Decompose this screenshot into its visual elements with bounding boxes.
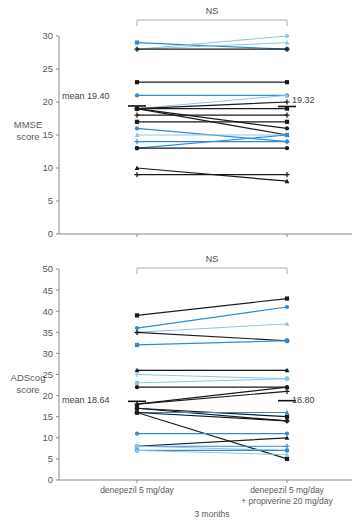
y-tick-label-adascog-40: 40 bbox=[42, 306, 53, 317]
marker-mmse-p1-left bbox=[135, 41, 139, 45]
marker-adascog-q14-left bbox=[135, 406, 139, 410]
marker-adascog-q5-left bbox=[135, 343, 139, 347]
mean-label-left-adascog: mean 18.64 bbox=[62, 395, 110, 405]
mean-label-right-mmse: 19.32 bbox=[292, 95, 315, 105]
x-category-label-left: denepezil 5 mg/day bbox=[100, 485, 174, 495]
y-tick-label-adascog-50: 50 bbox=[42, 263, 53, 274]
marker-mmse-p12-right bbox=[284, 113, 289, 118]
y-tick-label-mmse-5: 5 bbox=[48, 195, 53, 206]
y-tick-label-adascog-45: 45 bbox=[42, 285, 53, 296]
paired-line-plots: NS051015202530MMSEscoremean 19.4019.32NS… bbox=[0, 0, 360, 524]
series-line-adascog-q23 bbox=[137, 450, 287, 454]
series-line-adascog-q4 bbox=[137, 332, 287, 340]
ns-bracket-mmse bbox=[137, 20, 287, 26]
marker-mmse-p20-right bbox=[284, 172, 289, 177]
ns-label-adascog: NS bbox=[206, 254, 219, 264]
series-line-adascog-q21 bbox=[137, 446, 287, 450]
marker-mmse-p14-left bbox=[135, 126, 139, 130]
marker-mmse-p2-right bbox=[285, 34, 289, 38]
series-line-mmse-p8 bbox=[137, 102, 287, 109]
y-tick-label-mmse-30: 30 bbox=[42, 30, 53, 41]
series-line-adascog-q11 bbox=[137, 387, 287, 404]
y-axis-subtitle-mmse: score bbox=[16, 131, 39, 142]
series-line-adascog-q8 bbox=[137, 375, 287, 379]
marker-mmse-p13-left bbox=[135, 120, 139, 124]
x-category-label-right-line2: + propiverine 20 mg/day bbox=[241, 496, 333, 506]
marker-adascog-q9-left bbox=[135, 381, 139, 385]
marker-adascog-q22-right bbox=[285, 448, 289, 452]
marker-mmse-p12-left bbox=[134, 113, 139, 118]
marker-mmse-p5-right bbox=[285, 80, 289, 84]
y-tick-label-mmse-20: 20 bbox=[42, 96, 53, 107]
marker-mmse-p13-right bbox=[285, 120, 289, 124]
series-line-adascog-q19 bbox=[137, 438, 287, 446]
marker-adascog-q5-right bbox=[285, 339, 289, 343]
ns-label-mmse: NS bbox=[206, 6, 219, 16]
marker-adascog-q20-right bbox=[284, 444, 289, 449]
marker-mmse-p17-right bbox=[285, 133, 289, 137]
panel-adascog: NS05101520253035404550ADScogscoremean 18… bbox=[11, 254, 352, 485]
marker-mmse-p16-right bbox=[284, 139, 289, 144]
y-axis-title-mmse: MMSE bbox=[14, 119, 43, 130]
series-line-adascog-q1 bbox=[137, 299, 287, 316]
series-line-adascog-q5 bbox=[137, 341, 287, 345]
mean-label-right-adascog: 18.80 bbox=[292, 395, 315, 405]
figure-root: NS051015202530MMSEscoremean 19.4019.32NS… bbox=[0, 0, 360, 524]
y-axis-title-adascog: ADScog bbox=[11, 372, 46, 383]
y-tick-label-adascog-10: 10 bbox=[42, 432, 53, 443]
y-tick-label-mmse-15: 15 bbox=[42, 129, 53, 140]
marker-adascog-q8-left bbox=[134, 372, 139, 377]
marker-mmse-p20-left bbox=[134, 172, 139, 177]
marker-adascog-q21-left bbox=[135, 444, 139, 448]
y-axis-subtitle-adascog: score bbox=[16, 384, 39, 395]
y-tick-label-mmse-0: 0 bbox=[48, 228, 53, 239]
marker-adascog-q13-right bbox=[285, 415, 289, 419]
marker-adascog-q18-right bbox=[285, 431, 289, 435]
marker-adascog-q1-left bbox=[135, 313, 139, 317]
x-category-label-right-line1: denepezil 5 mg/day bbox=[250, 485, 324, 495]
ns-bracket-adascog bbox=[137, 268, 287, 274]
marker-adascog-q16-right bbox=[284, 418, 289, 423]
series-line-adascog-q9 bbox=[137, 379, 287, 383]
y-tick-label-adascog-30: 30 bbox=[42, 348, 53, 359]
y-tick-label-adascog-35: 35 bbox=[42, 327, 53, 338]
marker-adascog-q17-left bbox=[135, 410, 139, 414]
y-tick-label-adascog-15: 15 bbox=[42, 411, 53, 422]
y-tick-label-mmse-10: 10 bbox=[42, 162, 53, 173]
x-axis-title-shared: 3 months bbox=[195, 509, 230, 519]
y-tick-label-adascog-0: 0 bbox=[48, 474, 53, 485]
x-category-labels: denepezil 5 mg/daydenepezil 5 mg/day+ pr… bbox=[100, 485, 333, 519]
marker-adascog-q1-right bbox=[285, 296, 289, 300]
mean-label-left-mmse: mean 19.40 bbox=[62, 91, 110, 101]
y-tick-label-adascog-5: 5 bbox=[48, 453, 53, 464]
y-tick-label-mmse-25: 25 bbox=[42, 63, 53, 74]
marker-adascog-q17-right bbox=[285, 457, 289, 461]
marker-adascog-q2-right bbox=[285, 305, 289, 309]
marker-mmse-p18-left bbox=[135, 146, 139, 150]
series-line-mmse-p2 bbox=[137, 36, 287, 49]
marker-adascog-q12-right bbox=[284, 389, 289, 394]
panel-mmse: NS051015202530MMSEscoremean 19.4019.32 bbox=[14, 6, 352, 239]
marker-mmse-p8-right bbox=[284, 99, 289, 104]
marker-mmse-p16-left bbox=[134, 139, 139, 144]
marker-mmse-p6-left bbox=[135, 93, 139, 97]
y-tick-label-adascog-20: 20 bbox=[42, 390, 53, 401]
series-line-mmse-p10 bbox=[137, 109, 287, 129]
marker-adascog-q9-right bbox=[285, 377, 289, 381]
marker-mmse-p10-right bbox=[285, 126, 289, 130]
marker-adascog-q2-left bbox=[135, 326, 139, 330]
marker-mmse-p18-right bbox=[285, 146, 289, 150]
marker-adascog-q10-left bbox=[135, 385, 139, 389]
marker-adascog-q18-left bbox=[135, 431, 139, 435]
series-line-adascog-q12 bbox=[137, 391, 287, 404]
marker-mmse-p5-left bbox=[135, 80, 139, 84]
series-line-mmse-p7 bbox=[137, 95, 287, 108]
